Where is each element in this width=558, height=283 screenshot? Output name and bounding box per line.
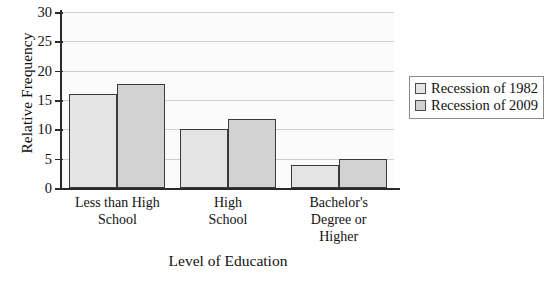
legend-swatch-icon xyxy=(415,100,426,111)
y-axis-tick xyxy=(55,71,63,73)
legend-item: Recession of 1982 xyxy=(415,80,538,97)
y-axis-tick xyxy=(55,41,63,43)
bar xyxy=(180,129,228,188)
y-axis-tick-label: 5 xyxy=(22,152,52,167)
legend-label: Recession of 2009 xyxy=(431,97,538,114)
y-axis-tick-label: 30 xyxy=(22,5,52,20)
x-axis-category-label-line: Bachelor's xyxy=(274,194,404,211)
x-axis-category-label-line: Degree or xyxy=(274,211,404,228)
y-axis-tick-label: 15 xyxy=(22,93,52,108)
bar xyxy=(291,165,339,188)
x-axis-category-label-line: Higher xyxy=(274,228,404,245)
y-axis-tick xyxy=(55,100,63,102)
legend-item: Recession of 2009 xyxy=(415,97,538,114)
bar xyxy=(228,119,276,188)
y-axis-tick-label: 20 xyxy=(22,64,52,79)
bar xyxy=(339,159,387,188)
chart-title xyxy=(60,0,380,3)
chart-figure: Relative Frequency 051015202530 Less tha… xyxy=(0,0,558,283)
legend-swatch-icon xyxy=(415,83,426,94)
legend: Recession of 1982Recession of 2009 xyxy=(409,76,544,119)
x-axis-category-label: Bachelor'sDegree orHigher xyxy=(274,194,404,245)
gridline xyxy=(62,41,394,42)
y-axis-tick xyxy=(55,159,63,161)
x-axis-title: Level of Education xyxy=(62,252,394,270)
legend-label: Recession of 1982 xyxy=(431,80,538,97)
bar xyxy=(69,94,117,188)
y-axis-tick xyxy=(55,129,63,131)
y-axis-tick-label: 0 xyxy=(22,181,52,196)
gridline xyxy=(62,12,394,13)
bar xyxy=(117,84,165,188)
y-axis-tick xyxy=(55,188,63,190)
y-axis-tick-label: 10 xyxy=(22,122,52,137)
y-axis-tick-label: 25 xyxy=(22,34,52,49)
x-axis-line xyxy=(55,188,400,190)
gridline xyxy=(62,71,394,72)
y-axis-tick xyxy=(55,12,63,14)
